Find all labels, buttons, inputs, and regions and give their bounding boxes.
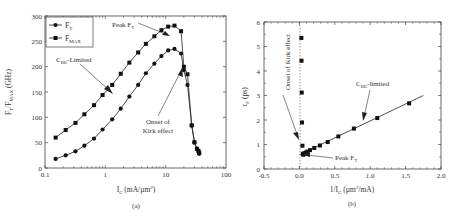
svg-text:1: 1 <box>104 171 108 179</box>
data-point-fmax <box>119 72 123 76</box>
data-point-fmax <box>179 29 183 33</box>
data-point-fmax <box>54 136 58 140</box>
data-point-fmax <box>64 128 68 132</box>
data-point-fmax <box>185 72 189 76</box>
svg-text:6: 6 <box>257 19 261 27</box>
svg-text:200: 200 <box>32 63 43 71</box>
data-point-fmax <box>136 50 140 54</box>
series-b <box>299 36 423 157</box>
data-point-ft <box>82 144 86 148</box>
data-point-tau <box>308 148 312 152</box>
data-point-tau <box>407 101 411 105</box>
data-point-fmax <box>182 65 186 69</box>
annotation-peak-ft-a: Peak FT <box>112 21 134 30</box>
y-axis-label-a: FT/FMAX (GHz) <box>4 68 14 115</box>
svg-text:1.5: 1.5 <box>401 172 410 180</box>
annotation-kirk-b: Onset of Kirk effect <box>284 34 292 90</box>
svg-text:150: 150 <box>32 89 43 97</box>
svg-text:5: 5 <box>257 43 261 51</box>
arrow-kirk-a <box>158 71 181 116</box>
data-point-fmax <box>197 151 201 155</box>
data-point-fmax <box>192 140 196 144</box>
data-point-ft <box>185 83 189 87</box>
data-point-ft <box>54 157 58 161</box>
data-point-fmax <box>110 83 114 87</box>
svg-text:1: 1 <box>257 141 261 149</box>
data-point-ft <box>166 48 170 52</box>
svg-text:250: 250 <box>32 38 43 46</box>
data-point-ft <box>144 71 148 75</box>
arrowhead-kirk-b <box>293 132 299 140</box>
data-point-fmax <box>73 121 77 125</box>
svg-text:4: 4 <box>257 68 261 76</box>
data-point-ft <box>64 153 68 157</box>
data-point-ft <box>92 137 96 141</box>
data-point-fmax <box>101 93 105 97</box>
svg-text:100: 100 <box>221 171 232 179</box>
annotation-cbe-limited-a: CBE-Limited <box>56 56 92 65</box>
caption-b: (b) <box>348 200 357 208</box>
data-point-fmax <box>144 42 148 46</box>
data-point-ft <box>100 127 104 131</box>
data-point-fmax <box>92 103 96 107</box>
data-point-ft <box>136 83 140 87</box>
data-point-tau <box>375 116 379 120</box>
data-point-ft <box>127 94 131 98</box>
legend-circle-marker <box>53 23 57 27</box>
svg-text:1.0: 1.0 <box>366 172 375 180</box>
annotation-kirk-a-line1: Onset of <box>146 118 171 126</box>
svg-text:300: 300 <box>32 13 43 21</box>
svg-text:10: 10 <box>162 171 170 179</box>
arrow-kirk-b <box>283 95 298 137</box>
data-point-ft <box>110 117 114 121</box>
svg-text:2.0: 2.0 <box>437 172 446 180</box>
annotation-peak-ft-b: Peak FT <box>335 154 357 163</box>
data-point-fmax <box>152 34 156 38</box>
data-point-tau <box>300 91 304 95</box>
data-point-tau <box>300 59 304 63</box>
svg-text:2: 2 <box>257 117 261 125</box>
data-point-tau <box>352 127 356 131</box>
data-point-ft <box>152 62 156 66</box>
data-point-ft <box>73 149 77 153</box>
data-point-fmax <box>82 112 86 116</box>
data-point-tau <box>299 36 303 40</box>
legend-square-marker <box>54 36 58 40</box>
arrowhead-cbe-b <box>362 112 367 121</box>
arrow-cbe-a <box>80 64 110 91</box>
data-point-fmax <box>172 24 176 28</box>
data-point-ft <box>159 54 163 58</box>
y-axis-label-b: τF (ps) <box>240 87 250 107</box>
panel-b: 0123456-0.50.00.51.01.52.0 τF (ps) 1/IC … <box>240 19 446 209</box>
arrow-peak-ft-b <box>307 155 333 158</box>
figure: 0501001502002503000.1110100 FT/FMAX (GHz… <box>0 0 461 221</box>
svg-text:3: 3 <box>257 92 261 100</box>
data-point-tau <box>326 140 330 144</box>
legend-a: FT FMAX <box>46 17 93 47</box>
x-axis-label-b: 1/IC (µm2/mA) <box>330 185 375 195</box>
data-point-fmax <box>166 25 170 29</box>
panel-a: 0501001502002503000.1110100 FT/FMAX (GHz… <box>4 13 232 211</box>
data-point-tau <box>336 134 340 138</box>
data-point-tau <box>318 143 322 147</box>
data-point-fmax <box>127 61 131 65</box>
data-point-ft <box>119 107 123 111</box>
svg-text:-0.5: -0.5 <box>258 172 270 180</box>
svg-text:100: 100 <box>32 114 43 122</box>
annotation-cbe-limited-b: CBE-limited <box>356 80 390 89</box>
svg-text:0.1: 0.1 <box>41 171 50 179</box>
caption-a: (a) <box>132 202 140 210</box>
svg-text:0.0: 0.0 <box>295 172 304 180</box>
svg-text:50: 50 <box>35 139 43 147</box>
annotation-kirk-a-line2: Kirk effect <box>143 127 173 135</box>
data-point-tau <box>312 146 316 150</box>
x-axis-label-a: IC (mA/µm2) <box>117 185 156 195</box>
data-point-fmax <box>190 123 194 127</box>
data-point-tau <box>300 144 304 148</box>
data-point-ft <box>172 47 176 51</box>
data-point-tau <box>300 120 304 124</box>
svg-text:0.5: 0.5 <box>330 172 339 180</box>
